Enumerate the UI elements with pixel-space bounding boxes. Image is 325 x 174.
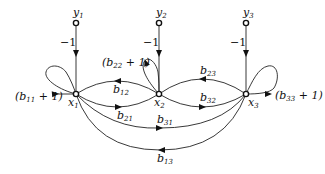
arrow-down-icon (73, 50, 79, 57)
label-y2: y2 (155, 6, 167, 20)
self-loop-x3 (246, 66, 277, 97)
arrow-down-icon (156, 50, 162, 57)
label-b33: (b33 + 1) (275, 89, 323, 103)
signal-flow-graph: y1 y2 y3 −1 −1 −1 x1 x2 x3 (b11 + 1) (b2… (0, 0, 325, 174)
label-gain-y3: −1 (230, 36, 246, 49)
edge-b21 (76, 94, 159, 110)
node-y1 (73, 20, 78, 25)
label-b31: b31 (157, 113, 173, 127)
label-b21: b21 (117, 109, 133, 123)
node-y2 (156, 20, 161, 25)
arrow-down-icon (243, 50, 249, 57)
label-b22: (b22 + 1) (102, 56, 150, 70)
label-y1: y1 (72, 6, 84, 20)
label-b13: b13 (157, 152, 174, 166)
label-gain-y1: −1 (60, 36, 76, 49)
label-x3: x3 (248, 96, 259, 110)
label-b23: b23 (200, 64, 217, 78)
label-b11: (b11 + 1) (15, 90, 63, 104)
node-y3 (243, 20, 248, 25)
label-b32: b32 (200, 91, 217, 105)
label-b12: b12 (113, 83, 130, 97)
label-y3: y3 (242, 6, 254, 20)
label-gain-y2: −1 (143, 36, 159, 49)
label-x2: x2 (154, 96, 165, 110)
